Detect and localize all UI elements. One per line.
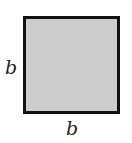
side-label-left: b [5,58,17,77]
shaded-square [23,16,120,114]
side-label-bottom: b [66,119,78,138]
